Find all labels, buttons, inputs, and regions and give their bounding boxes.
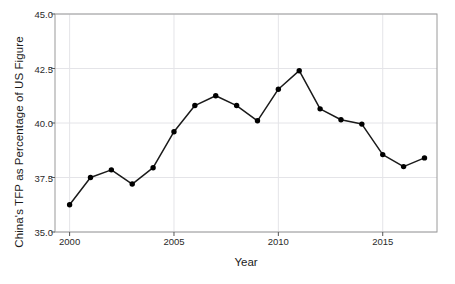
data-point-marker xyxy=(380,152,385,157)
data-point-marker xyxy=(359,121,364,126)
data-point-marker xyxy=(317,106,322,111)
data-line xyxy=(70,71,425,205)
plot-area xyxy=(0,0,455,284)
chart-container: China's TFP as Percentage of US Figure 3… xyxy=(0,0,455,284)
data-point-marker xyxy=(234,103,239,108)
data-point-marker xyxy=(150,165,155,170)
data-point-marker xyxy=(192,103,197,108)
data-point-marker xyxy=(213,93,218,98)
data-point-marker xyxy=(422,155,427,160)
data-point-marker xyxy=(88,175,93,180)
data-point-marker xyxy=(130,181,135,186)
data-point-marker xyxy=(255,118,260,123)
data-point-marker xyxy=(401,164,406,169)
data-point-marker xyxy=(67,202,72,207)
data-point-marker xyxy=(109,167,114,172)
data-point-marker xyxy=(276,87,281,92)
data-point-marker xyxy=(297,68,302,73)
data-point-marker xyxy=(171,129,176,134)
x-axis-title: Year xyxy=(55,256,437,268)
data-point-marker xyxy=(338,117,343,122)
